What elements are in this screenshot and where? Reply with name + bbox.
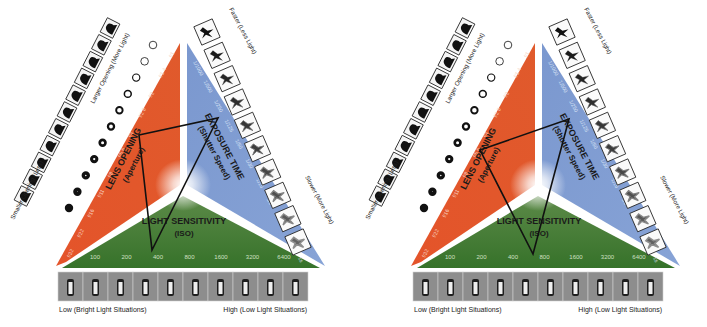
shutter-slower-label: Slower (More Light) <box>659 174 691 225</box>
bottle-label <box>424 282 428 294</box>
aperture-sample-photo <box>74 68 94 89</box>
aperture-circle-icon <box>504 41 512 49</box>
exposure-triangle-right: f/32f/22f/16f/11f/8f/5.6f/4f/2.8f/2f/1.4… <box>364 6 691 314</box>
shutter-faster-label: Faster (Less Light) <box>583 6 613 55</box>
aperture-circle-icon <box>496 58 504 66</box>
iso-tick-label: 1600 <box>214 254 228 260</box>
aperture-sample-photo <box>421 85 441 106</box>
aperture-sample-photo <box>412 102 432 123</box>
aperture-circle-icon <box>75 189 80 194</box>
aperture-circle-icon <box>108 123 114 129</box>
iso-tick-label: 200 <box>121 254 132 260</box>
aperture-sample-photo <box>100 18 120 39</box>
aperture-sample-photo <box>66 85 86 106</box>
aperture-circle-icon <box>447 156 452 161</box>
iso-tick-label: 400 <box>153 254 164 260</box>
bottle-label <box>269 282 273 294</box>
center-glow <box>510 159 566 211</box>
iso-tick-label: 100 <box>90 254 101 260</box>
iso-tick-label: 100 <box>445 254 456 260</box>
aperture-smaller-label: Smaller Opening (Less) <box>364 159 400 220</box>
aperture-circle-icon <box>149 41 157 49</box>
shutter-faster-label: Faster (Less Light) <box>228 6 258 55</box>
bottle-label <box>294 282 298 294</box>
bottle-label <box>244 282 248 294</box>
exposure-triangle-left: f/32f/22f/16f/11f/8f/5.6f/4f/2.8f/2f/1.4… <box>9 6 336 314</box>
bottle-label <box>624 282 628 294</box>
shutter-sample-photo <box>214 66 240 92</box>
aperture-circle-icon <box>124 90 131 97</box>
iso-tick-label: 200 <box>476 254 487 260</box>
bottle-label <box>499 282 503 294</box>
iso-low-label: Low (Bright Light Situations) <box>414 306 502 314</box>
bottle-label <box>219 282 223 294</box>
aperture-sample-photo <box>404 118 424 139</box>
shutter-sample-photo <box>549 19 575 45</box>
iso-sample-strip <box>413 272 663 301</box>
iso-title: LIGHT SENSITIVITY <box>497 216 582 226</box>
shutter-sample-photo <box>194 19 220 45</box>
shutter-sample-photo <box>569 66 595 92</box>
bottle-label <box>524 282 528 294</box>
iso-high-label: High (Low Light Situations) <box>578 306 662 314</box>
aperture-circle-icon <box>116 107 122 113</box>
iso-low-label: Low (Bright Light Situations) <box>59 306 147 314</box>
aperture-sample-photo <box>455 18 475 39</box>
aperture-sample-photo <box>447 34 467 55</box>
bottle-label <box>574 282 578 294</box>
iso-tick-label: 800 <box>539 254 550 260</box>
exposure-triangle-figure: f/32f/22f/16f/11f/8f/5.6f/4f/2.8f/2f/1.4… <box>0 0 707 327</box>
aperture-circle-icon <box>479 90 486 97</box>
bottle-label <box>69 282 73 294</box>
bottle-label <box>94 282 98 294</box>
bottle-label <box>599 282 603 294</box>
aperture-sample-photo <box>83 51 103 72</box>
aperture-circle-icon <box>92 156 97 161</box>
shutter-sample-photo <box>204 42 230 68</box>
iso-tick-label: 400 <box>508 254 519 260</box>
bottle-label <box>194 282 198 294</box>
iso-tick-label: 6400 <box>277 254 291 260</box>
bottle-label <box>449 282 453 294</box>
aperture-sample-photo <box>429 68 449 89</box>
iso-tick-label: 1600 <box>569 254 583 260</box>
bottle-label <box>119 282 123 294</box>
bottle-label <box>169 282 173 294</box>
aperture-circle-icon <box>455 140 461 146</box>
aperture-circle-icon <box>422 206 426 210</box>
iso-subtitle: (ISO) <box>174 229 193 238</box>
iso-tick-label: 3200 <box>601 254 615 260</box>
bottle-label <box>474 282 478 294</box>
figure-canvas: f/32f/22f/16f/11f/8f/5.6f/4f/2.8f/2f/1.4… <box>0 0 707 327</box>
bottle-label <box>549 282 553 294</box>
iso-tick-label: 6400 <box>632 254 646 260</box>
iso-sample-strip <box>58 272 308 301</box>
aperture-circle-icon <box>133 74 140 81</box>
shutter-slower-label: Slower (More Light) <box>304 174 336 225</box>
aperture-circle-icon <box>488 74 495 81</box>
iso-tick-label: 3200 <box>246 254 260 260</box>
aperture-circle-icon <box>463 123 469 129</box>
aperture-sample-photo <box>57 102 77 123</box>
aperture-circle-icon <box>83 173 88 178</box>
iso-high-label: High (Low Light Situations) <box>223 306 307 314</box>
bottle-label <box>144 282 148 294</box>
aperture-circle-icon <box>438 173 443 178</box>
iso-tick-label: 800 <box>184 254 195 260</box>
aperture-smaller-label: Smaller Opening (Less) <box>9 159 45 220</box>
aperture-circle-icon <box>471 107 477 113</box>
aperture-circle-icon <box>67 206 71 210</box>
aperture-sample-photo <box>438 51 458 72</box>
iso-title: LIGHT SENSITIVITY <box>142 216 227 226</box>
aperture-sample-photo <box>49 118 69 139</box>
aperture-sample-photo <box>395 135 415 156</box>
bottle-label <box>649 282 653 294</box>
aperture-circle-icon <box>430 189 435 194</box>
aperture-circle-icon <box>141 58 149 66</box>
aperture-sample-photo <box>92 34 112 55</box>
aperture-circle-icon <box>100 140 106 146</box>
center-glow <box>155 159 211 211</box>
aperture-sample-photo <box>40 135 60 156</box>
shutter-sample-photo <box>559 42 585 68</box>
